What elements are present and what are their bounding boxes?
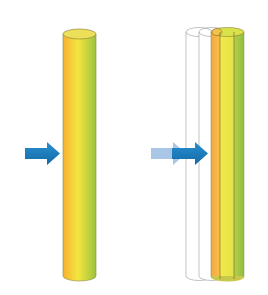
solid-cylinder xyxy=(63,29,96,281)
right-panel xyxy=(151,28,244,282)
left-panel xyxy=(25,29,96,281)
green-layer xyxy=(234,32,244,278)
diagram-canvas xyxy=(0,0,268,295)
orange-layer xyxy=(211,32,220,278)
yellow-layer xyxy=(220,32,234,278)
layered-cylinder xyxy=(211,28,244,282)
incoming-arrow-icon xyxy=(25,142,60,165)
